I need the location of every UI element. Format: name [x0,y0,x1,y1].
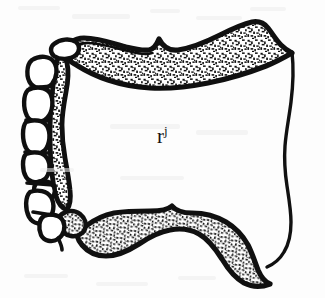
cell-1 [51,40,79,59]
specimen-label-superscript: j [164,123,168,138]
bottom-stippled-band [59,206,270,286]
specimen-label: rj [157,124,168,147]
top-stippled-band [62,22,292,89]
cell-divider-2 [26,120,49,121]
cell-8 [39,215,64,241]
cell-2 [27,57,56,89]
cell-divider-1 [30,86,52,88]
right-edge-line [267,52,293,267]
cell-5 [23,152,49,182]
figure-canvas: rj [0,0,325,298]
cell-4 [23,120,49,154]
specimen-drawing [0,0,325,298]
specimen-label-base: r [157,124,164,148]
cell-3 [24,88,52,122]
lower-left-connector [58,238,62,250]
cell-divider-3 [25,152,48,153]
cell-divider-4 [27,183,53,185]
